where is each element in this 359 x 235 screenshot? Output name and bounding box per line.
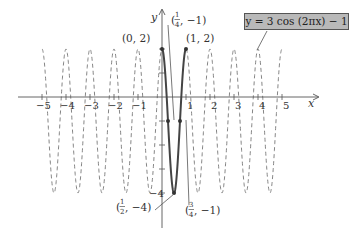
leader-line-equation (257, 31, 267, 50)
key-point-marker (184, 47, 188, 51)
svg-text:1: 1 (120, 198, 124, 206)
y-tick-label: −4 (149, 188, 164, 199)
key-point-marker (178, 119, 182, 123)
x-tick-label: 5 (283, 100, 289, 111)
solid-cosine-curve-one-period (162, 49, 186, 193)
svg-text:2: 2 (120, 208, 124, 216)
x-tick-label: 3 (235, 100, 241, 111)
svg-text:3: 3 (189, 201, 193, 209)
x-tick-label: −3 (84, 100, 99, 111)
svg-text:, −4): , −4) (125, 201, 151, 213)
axis-ticks: −5−4−3−2−112345−4 (36, 49, 289, 199)
x-tick-label: −1 (132, 100, 147, 111)
x-tick-label: 2 (211, 100, 217, 111)
label-point-quarter: ( 1 4 , −1) (171, 11, 206, 29)
svg-text:, −1): , −1) (180, 14, 206, 26)
dashed-curve-right (186, 49, 282, 193)
key-point-marker (160, 47, 164, 51)
svg-text:1: 1 (175, 11, 179, 19)
svg-text:, −1): , −1) (194, 204, 220, 216)
x-axis-label: x (308, 97, 315, 110)
x-tick-label: −5 (36, 100, 51, 111)
dashed-curve-left (42, 49, 162, 193)
key-point-marker (166, 119, 170, 123)
label-point-1-2: (1, 2) (186, 32, 214, 44)
x-tick-label: −4 (60, 100, 75, 111)
x-tick-label: 4 (259, 100, 265, 111)
label-point-half: ( 1 2 , −4) (116, 198, 151, 216)
label-point-three-quarter: ( 3 4 , −1) (185, 201, 220, 219)
x-tick-label: 1 (187, 100, 193, 111)
equation-label-box: y = 3 cos (2πx) − 1 (244, 13, 349, 30)
graph-plot: −5−4−3−2−112345−4 (0, 2) (1, 2) ( 1 4 , … (0, 0, 359, 235)
leader-line-quarter (168, 25, 174, 120)
y-axis-label: y (150, 11, 158, 24)
leader-line-three-quarter (186, 120, 189, 205)
solid-curve-path (162, 49, 186, 193)
x-tick-label: −2 (108, 100, 123, 111)
label-point-0-2: (0, 2) (122, 32, 150, 44)
